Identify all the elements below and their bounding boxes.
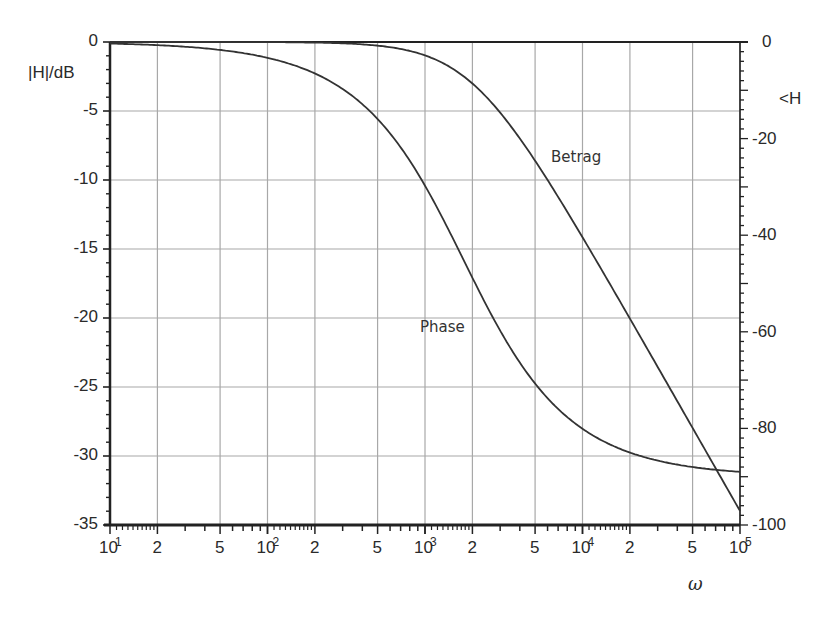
x-tick-label: 5	[373, 539, 382, 556]
bode-plot: 0-5-10-15-20-25-30-35 0-20-40-60-80-100 …	[0, 0, 832, 624]
plot-area	[0, 0, 832, 624]
x-tick-label: 104	[572, 539, 595, 556]
right-axis-title: <H	[779, 90, 801, 107]
left-tick-label: -15	[38, 239, 98, 256]
x-tick-label: 5	[215, 539, 224, 556]
left-tick-label: 0	[38, 32, 98, 49]
x-tick-label: 2	[467, 539, 476, 556]
right-tick-label: -100	[752, 516, 786, 533]
left-tick-label: -20	[38, 308, 98, 325]
x-tick-label: 5	[530, 539, 539, 556]
x-tick-label: 2	[625, 539, 634, 556]
x-tick-label: 102	[257, 539, 280, 556]
x-tick-label: 2	[152, 539, 161, 556]
right-tick-label: 0	[762, 33, 771, 50]
x-tick-label: 5	[688, 539, 697, 556]
phase-label: Phase	[420, 320, 465, 335]
x-axis-title: ω	[688, 575, 703, 593]
left-tick-label: -35	[38, 515, 98, 532]
x-tick-label: 2	[310, 539, 319, 556]
left-axis-title: |H|/dB	[28, 64, 75, 81]
betrag-label: Betrag	[551, 150, 601, 165]
grid-lines	[110, 42, 740, 525]
left-tick-label: -30	[38, 446, 98, 463]
right-tick-label: -40	[752, 226, 777, 243]
left-tick-label: -10	[38, 170, 98, 187]
left-tick-label: -5	[38, 101, 98, 118]
x-tick-label: 101	[99, 539, 122, 556]
right-tick-label: -80	[752, 419, 777, 436]
right-tick-label: -60	[752, 323, 777, 340]
axis-frame	[104, 42, 748, 525]
left-tick-label: -25	[38, 377, 98, 394]
x-tick-label: 105	[729, 539, 752, 556]
right-tick-label: -20	[752, 130, 777, 147]
x-tick-label: 103	[414, 539, 437, 556]
